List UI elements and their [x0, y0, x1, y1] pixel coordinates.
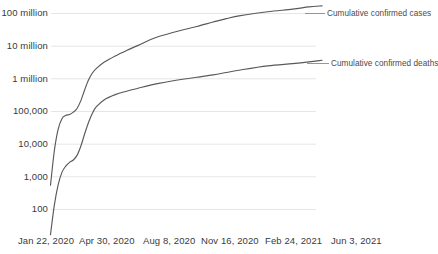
gridlines	[51, 14, 316, 210]
x-tick-label-jan-22-2020: Jan 22, 2020	[18, 235, 74, 246]
series-lines	[51, 6, 323, 235]
x-tick-label-aug-8-2020: Aug 8, 2020	[143, 235, 195, 246]
y-tick-label-1-thousand: 1,000	[0, 171, 48, 182]
series-label-cumulative-confirmed-cases: Cumulative confirmed cases	[327, 9, 431, 18]
y-tick-label-100-thousand: 100,000	[0, 105, 48, 116]
x-tick-label-nov-16-2020: Nov 16, 2020	[201, 235, 259, 246]
y-tick-label-10-million: 10 million	[0, 40, 48, 51]
line-cumulative-confirmed-cases	[51, 6, 323, 185]
series-label-leaders	[305, 14, 329, 64]
y-tick-label-1-million: 1 million	[0, 73, 48, 84]
x-tick-label-jun-3-2021: Jun 3, 2021	[331, 235, 382, 246]
y-tick-label-10-thousand: 10,000	[0, 138, 48, 149]
line-cumulative-confirmed-deaths	[51, 60, 323, 234]
series-label-cumulative-confirmed-deaths: Cumulative confirmed deaths	[331, 59, 438, 68]
y-tick-label-100-million: 100 million	[0, 7, 48, 18]
x-tick-label-feb-24-2021: Feb 24, 2021	[265, 235, 322, 246]
x-tick-label-apr-30-2020: Apr 30, 2020	[79, 235, 135, 246]
y-tick-label-100: 100	[0, 203, 48, 214]
